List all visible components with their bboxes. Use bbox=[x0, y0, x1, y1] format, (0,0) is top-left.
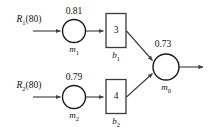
weight-label-m0: 0.73 bbox=[155, 40, 172, 50]
block-label-b1: b1 bbox=[112, 51, 120, 62]
edge-b1-to-m0 bbox=[127, 31, 153, 61]
node-label-m2: m2 bbox=[69, 111, 79, 122]
node-m0 bbox=[153, 54, 179, 80]
weight-label-m1: 0.81 bbox=[66, 7, 83, 17]
node-m2 bbox=[63, 86, 86, 109]
source-label-r1: R1(80) bbox=[17, 15, 42, 26]
node-label-m0: m0 bbox=[161, 83, 171, 94]
block-value-b2: 4 bbox=[114, 92, 119, 102]
block-value-b1: 3 bbox=[114, 26, 119, 36]
edge-b2-to-m0 bbox=[127, 74, 153, 98]
weight-label-m2: 0.79 bbox=[66, 73, 83, 83]
reliability-block-diagram: R1(80) R2(80) 0.81 0.79 0.73 m1 m2 m0 3 … bbox=[0, 0, 210, 138]
node-m1 bbox=[63, 20, 86, 43]
source-label-r2: R2(80) bbox=[17, 81, 42, 92]
node-label-m1: m1 bbox=[69, 45, 79, 56]
block-label-b2: b2 bbox=[112, 117, 120, 128]
